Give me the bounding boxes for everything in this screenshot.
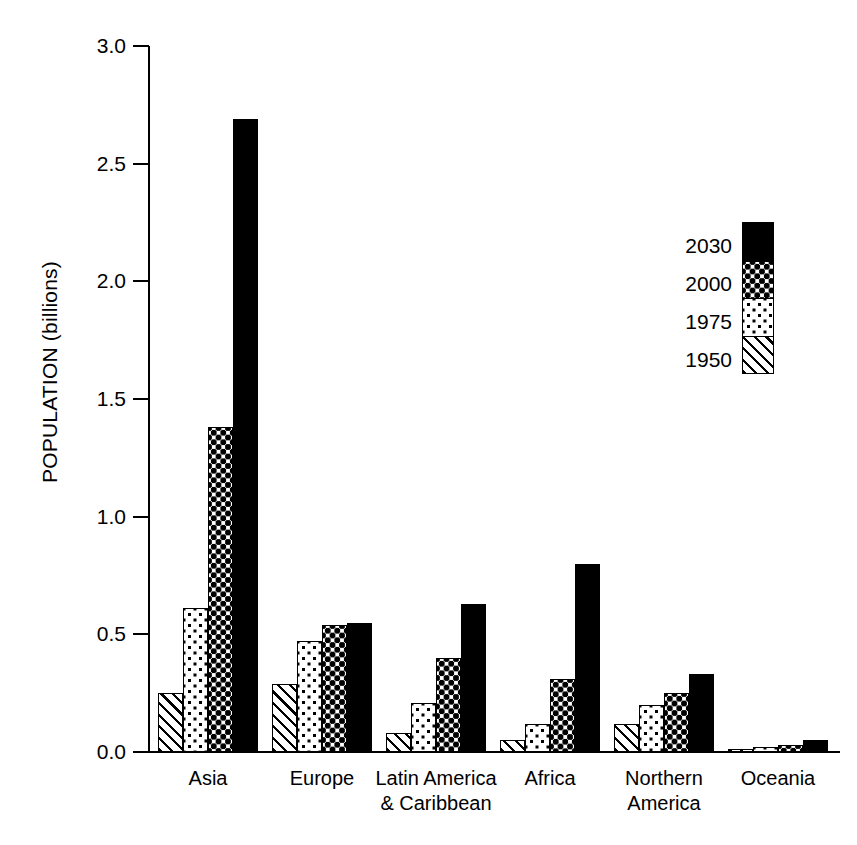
y-axis-tick-label: 2.5 [66,153,126,174]
y-axis-tick [133,163,149,165]
y-axis-title: POPULATION (billions) [38,162,62,582]
y-axis-tick-label: 0.5 [66,623,126,644]
bar [461,604,486,752]
legend-label-2000: 2000 [642,273,732,294]
bar [347,623,372,752]
bar-group [272,46,372,752]
bar [575,564,600,752]
y-axis-tick [133,45,149,47]
y-axis-tick [133,516,149,518]
bar [411,703,436,752]
bar-group [158,46,258,752]
legend-swatch-column [742,222,774,374]
bar [322,625,347,752]
legend-swatch-1950 [743,336,773,374]
legend-label-2030: 2030 [642,235,732,256]
bar [436,658,461,752]
y-axis-tick-label: 3.0 [66,35,126,56]
x-axis-category-label: Oceania [688,766,857,791]
legend-swatch-2000 [743,261,773,299]
bar [728,749,753,752]
plot-area [150,46,840,752]
legend: 2030200019751950 [614,222,774,374]
bar-group [500,46,600,752]
bar [500,740,525,752]
legend-label-1950: 1950 [642,349,732,370]
bar [639,705,664,752]
bar [297,641,322,752]
y-axis-tick-label: 2.0 [66,270,126,291]
y-axis-tick-label: 1.0 [66,506,126,527]
bar-group [614,46,714,752]
y-axis-tick [133,633,149,635]
bar [525,724,550,752]
bar-group [386,46,486,752]
population-bar-chart: POPULATION (billions) 0.00.51.01.52.02.5… [0,0,857,845]
bar [386,733,411,752]
bar [753,747,778,752]
legend-swatch-1975 [743,298,773,336]
bar [614,724,639,752]
y-axis-tick-label: 1.5 [66,388,126,409]
y-axis-tick-label: 0.0 [66,741,126,762]
legend-label-1975: 1975 [642,311,732,332]
bar [664,693,689,752]
y-axis-tick [133,398,149,400]
bar [272,684,297,752]
bar-group [728,46,828,752]
y-axis-tick [133,751,149,753]
bar [778,745,803,752]
bar [158,693,183,752]
bar [803,740,828,752]
bar [550,679,575,752]
bar [208,427,233,752]
bar [233,119,258,752]
legend-swatch-2030 [743,223,773,261]
y-axis-tick [133,280,149,282]
bar [689,674,714,752]
bar [183,608,208,752]
